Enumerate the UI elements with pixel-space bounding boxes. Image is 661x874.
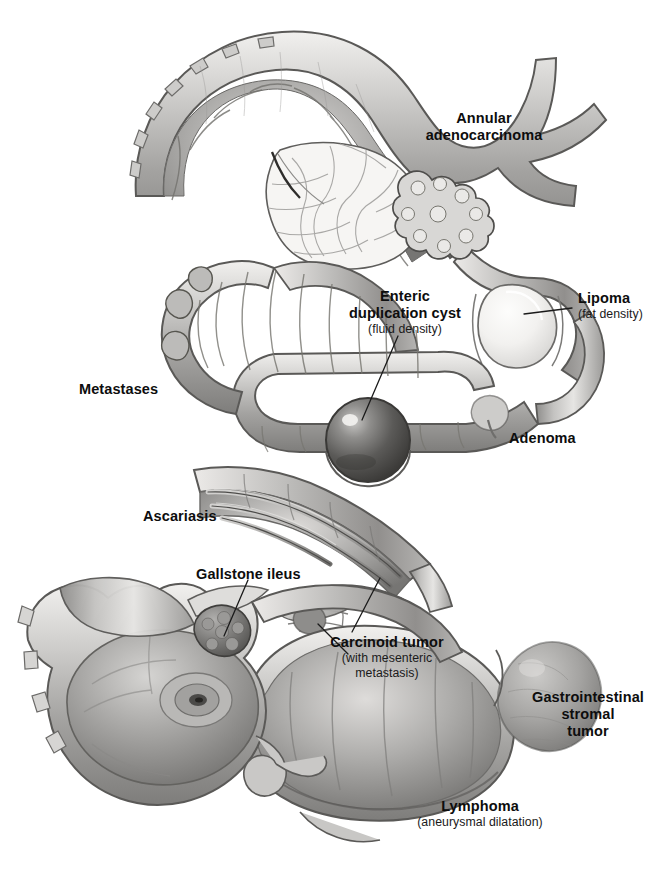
ileocecal-valve <box>160 673 232 727</box>
label-ascariasis: Ascariasis <box>143 508 217 525</box>
annular-adenocarcinoma-line1: Annular <box>456 110 511 126</box>
label-gallstone-ileus: Gallstone ileus <box>196 566 301 583</box>
label-metastases: Metastases <box>79 381 158 398</box>
illustration-figure: Annular adenocarcinoma Enteric duplicati… <box>0 0 661 874</box>
label-carcinoid-tumor: Carcinoid tumor (with mesenteric metasta… <box>307 634 467 681</box>
carcinoid-subtitle-line1: (with mesenteric <box>307 651 467 666</box>
gist-line1: Gastrointestinal <box>532 689 644 705</box>
carcinoid-subtitle-line2: metastasis) <box>307 666 467 681</box>
adenoma-title: Adenoma <box>509 430 576 446</box>
label-gastrointestinal-stromal-tumor: Gastrointestinal stromal tumor <box>518 689 658 740</box>
label-annular-adenocarcinoma: Annular adenocarcinoma <box>404 110 564 144</box>
gist-line3: tumor <box>567 723 609 739</box>
enteric-cyst-line2: duplication cyst <box>349 305 461 321</box>
gist-line2: stromal <box>561 706 614 722</box>
enteric-cyst-line1: Enteric <box>380 288 430 304</box>
lipoma-subtitle: (fat density) <box>578 307 661 322</box>
ascariasis-title: Ascariasis <box>143 508 217 524</box>
label-enteric-duplication-cyst: Enteric duplication cyst (fluid density) <box>330 288 480 337</box>
metastases-title: Metastases <box>79 381 158 397</box>
label-adenoma: Adenoma <box>509 430 576 447</box>
duplication-cyst <box>326 398 410 482</box>
gallstone-ileus-title: Gallstone ileus <box>196 566 301 582</box>
lymphoma-title: Lymphoma <box>441 798 519 814</box>
annular-adenocarcinoma-line2: adenocarcinoma <box>426 127 543 143</box>
lymphoma-subtitle: (aneurysmal dilatation) <box>380 815 580 830</box>
enteric-cyst-subtitle: (fluid density) <box>330 322 480 337</box>
lipoma-mass <box>478 285 557 368</box>
lipoma-title: Lipoma <box>578 290 630 306</box>
label-lymphoma: Lymphoma (aneurysmal dilatation) <box>380 798 580 830</box>
annular-adenocarcinoma-lesion <box>393 171 494 259</box>
label-lipoma: Lipoma (fat density) <box>578 290 661 322</box>
carcinoid-title: Carcinoid tumor <box>330 634 443 650</box>
